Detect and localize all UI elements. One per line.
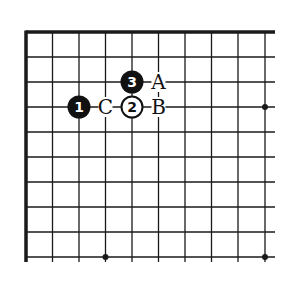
star-point-icon (262, 254, 268, 260)
black-stone-3: 3 (121, 71, 144, 94)
go-board-diagram: ABC 123 (0, 0, 299, 294)
stone-move-number: 1 (74, 99, 84, 115)
point-label-c: C (98, 95, 113, 119)
point-label-b: B (151, 95, 166, 119)
star-point-icon (262, 104, 268, 110)
grid-lines (26, 31, 275, 263)
white-stone-2: 2 (122, 97, 143, 118)
black-stone-1: 1 (68, 96, 91, 119)
point-label-a: A (150, 70, 166, 94)
stone-move-number: 2 (127, 99, 137, 115)
star-point-icon (103, 254, 109, 260)
stone-move-number: 3 (127, 74, 137, 90)
